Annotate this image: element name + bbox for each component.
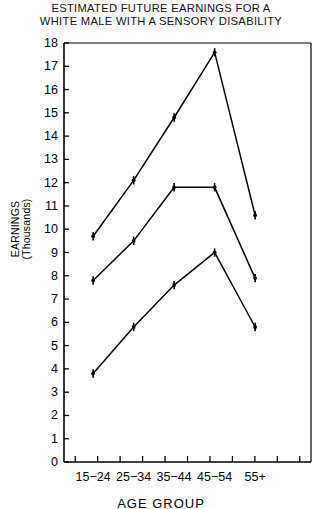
data-point-marker [91, 276, 95, 284]
series-markers [91, 48, 257, 378]
plot-area [0, 0, 322, 509]
series-line-middle [93, 187, 255, 280]
series-line-upper [93, 52, 255, 236]
series-lines [93, 52, 255, 373]
data-point-marker [132, 323, 136, 331]
chart-container: ESTIMATED FUTURE EARNINGS FOR A WHITE MA… [0, 0, 322, 509]
data-point-marker [91, 369, 95, 377]
series-line-lower [93, 253, 255, 374]
data-point-marker [172, 281, 176, 289]
x-axis-title: AGE GROUP [0, 496, 322, 509]
axis-lines [64, 43, 311, 462]
